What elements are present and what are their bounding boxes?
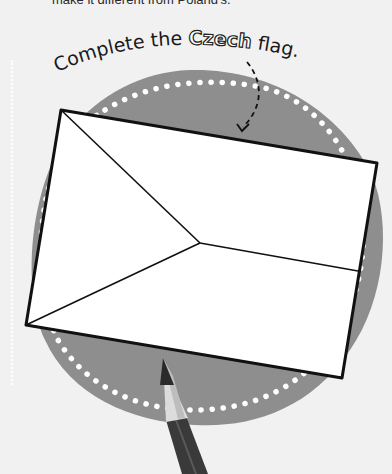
flag-activity-illustration: Complete the Czech flag.: [0, 0, 392, 474]
title-highlight-czech: Czech: [188, 27, 253, 53]
activity-title: Complete the Czech flag.: [50, 27, 302, 76]
